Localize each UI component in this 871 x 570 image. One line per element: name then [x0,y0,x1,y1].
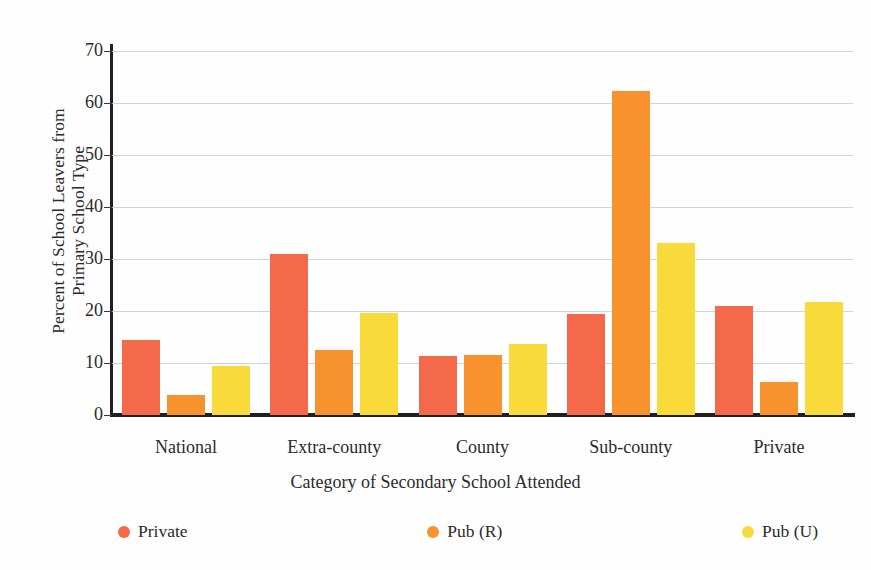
y-axis-tick-mark [104,259,112,260]
y-axis-tick-mark [104,415,112,416]
y-axis-tick-label: 50 [85,144,103,165]
y-axis-tick-label: 30 [85,248,103,269]
y-axis-tick-mark [104,155,112,156]
x-axis-tick-label: Extra-county [260,437,408,458]
y-axis-tick-mark [104,103,112,104]
legend-item[interactable]: Private [118,521,188,542]
y-axis-tick-label: 20 [85,300,103,321]
legend-label: Private [138,521,188,542]
chart-legend: PrivatePub (R)Pub (U) [118,521,818,542]
x-axis-tick-label: Sub-county [557,437,705,458]
bar[interactable] [567,314,605,415]
bar-group [260,48,408,415]
legend-item[interactable]: Pub (R) [427,521,502,542]
bar[interactable] [657,243,695,415]
x-axis-tick-label: Private [705,437,853,458]
bar-group [557,48,705,415]
bar[interactable] [715,306,753,415]
y-axis-tick-label: 40 [85,196,103,217]
chart-figure: Percent of School Leavers from Primary S… [0,0,871,570]
bar-group [408,48,556,415]
y-axis-tick-label: 70 [85,40,103,61]
y-axis-tick-mark [104,363,112,364]
bar[interactable] [419,356,457,415]
bar[interactable] [122,340,160,415]
bar[interactable] [760,382,798,415]
plot-area: 010203040506070 [112,48,853,415]
bar[interactable] [315,350,353,415]
bar[interactable] [805,302,843,415]
y-axis-tick-mark [104,207,112,208]
x-axis-tick-label: National [112,437,260,458]
bar[interactable] [167,395,205,415]
legend-item[interactable]: Pub (U) [742,521,818,542]
x-axis-tick-labels: NationalExtra-countyCountySub-countyPriv… [112,437,853,458]
legend-label: Pub (U) [762,521,818,542]
bar[interactable] [212,366,250,415]
legend-label: Pub (R) [447,521,502,542]
y-axis-title-line-1: Percent of School Leavers from [48,108,68,334]
legend-swatch-circle-icon [742,526,754,538]
bar-group [705,48,853,415]
y-axis-tick-mark [104,51,112,52]
x-axis-title: Category of Secondary School Attended [0,472,871,493]
y-axis-tick-label: 0 [94,404,103,425]
y-axis-tick-mark [104,311,112,312]
y-axis-tick-label: 60 [85,92,103,113]
y-axis-title-line-2: Primary School Type [68,146,88,296]
bar[interactable] [360,313,398,415]
bar[interactable] [509,344,547,415]
bar[interactable] [270,254,308,415]
y-axis-tick-label: 10 [85,352,103,373]
bar-groups [112,48,853,415]
bar[interactable] [612,91,650,415]
bar-group [112,48,260,415]
x-axis-tick-label: County [408,437,556,458]
legend-swatch-circle-icon [427,526,439,538]
legend-swatch-circle-icon [118,526,130,538]
bar[interactable] [464,355,502,415]
